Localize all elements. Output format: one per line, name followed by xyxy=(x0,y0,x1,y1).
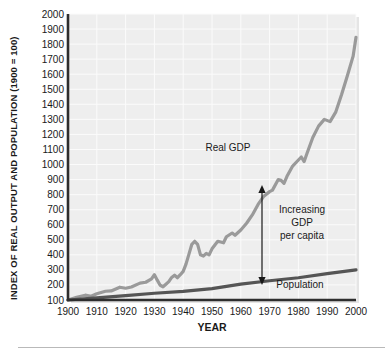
population-label: Population xyxy=(276,279,323,290)
bottom-divider xyxy=(18,347,385,348)
x-tick-1990: 1990 xyxy=(316,306,339,317)
chart-figure: 1002003004005006007008009001000110012001… xyxy=(0,0,392,363)
y-tick-1100: 1100 xyxy=(42,144,64,155)
real-gdp-label: Real GDP xyxy=(205,142,250,153)
increasing-label: Increasing xyxy=(279,204,325,215)
index-of-real-output-and-population-chart: 1002003004005006007008009001000110012001… xyxy=(0,0,392,363)
y-tick-1900: 1900 xyxy=(42,24,65,35)
y-tick-2000: 2000 xyxy=(42,9,65,20)
x-tick-1970: 1970 xyxy=(258,306,281,317)
gdp-label: GDP xyxy=(291,217,313,228)
x-tick-1910: 1910 xyxy=(86,306,109,317)
x-tick-1980: 1980 xyxy=(287,306,310,317)
y-tick-700: 700 xyxy=(47,204,64,215)
y-tick-1200: 1200 xyxy=(42,129,65,140)
y-tick-400: 400 xyxy=(47,249,64,260)
y-tick-1000: 1000 xyxy=(42,159,65,170)
x-axis-tick-labels: 1900191019201930194019501960197019801990… xyxy=(57,306,368,317)
y-tick-900: 900 xyxy=(47,174,64,185)
y-tick-800: 800 xyxy=(47,189,64,200)
y-axis-title: INDEX OF REAL OUTPUT AND POPULATION (190… xyxy=(8,36,19,300)
x-axis-title: YEAR xyxy=(197,321,227,333)
x-tick-1930: 1930 xyxy=(143,306,166,317)
y-tick-1700: 1700 xyxy=(42,54,65,65)
x-tick-1960: 1960 xyxy=(230,306,253,317)
x-tick-1920: 1920 xyxy=(114,306,137,317)
y-tick-1800: 1800 xyxy=(42,39,65,50)
per-capita-label: per capita xyxy=(280,230,324,241)
y-tick-100: 100 xyxy=(47,295,64,306)
x-tick-1940: 1940 xyxy=(172,306,195,317)
y-tick-1400: 1400 xyxy=(42,99,65,110)
y-tick-1600: 1600 xyxy=(42,69,65,80)
x-tick-2000: 2000 xyxy=(345,306,368,317)
y-tick-300: 300 xyxy=(47,264,64,275)
y-tick-600: 600 xyxy=(47,219,64,230)
x-tick-1900: 1900 xyxy=(57,306,80,317)
y-axis-tick-labels: 1002003004005006007008009001000110012001… xyxy=(42,9,65,306)
y-tick-500: 500 xyxy=(47,234,64,245)
y-tick-1500: 1500 xyxy=(42,84,65,95)
y-tick-1300: 1300 xyxy=(42,114,65,125)
x-tick-1950: 1950 xyxy=(201,306,224,317)
y-tick-200: 200 xyxy=(47,279,64,290)
